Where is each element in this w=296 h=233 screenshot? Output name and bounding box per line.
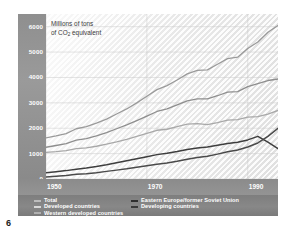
legend-swatch-icon — [131, 206, 138, 208]
legend-label: Western developed countries — [44, 211, 123, 217]
series-line — [46, 110, 278, 152]
legend-swatch-icon — [34, 206, 41, 208]
figure: 0100020003000400050006000 Millions of to… — [18, 14, 278, 216]
series-line — [46, 136, 278, 172]
x-axis-tick-label: 1990 — [249, 183, 264, 190]
legend-swatch-icon — [34, 212, 41, 214]
legend-item[interactable]: Western developed countries — [34, 211, 123, 217]
y-axis-title-line2-pre: of CO — [51, 29, 68, 36]
series-line — [46, 25, 278, 137]
legend-swatch-icon — [34, 200, 41, 202]
y-axis-tick-label: 6000 — [29, 24, 43, 30]
legend-label: Developing countries — [141, 204, 199, 210]
y-axis-title-line1: Millions of tons — [51, 20, 93, 27]
y-axis-tick-label: 3000 — [29, 100, 43, 106]
y-axis-title-line2-post: equivalent — [70, 29, 101, 36]
chart-legend: TotalDeveloped countriesWestern develope… — [18, 195, 278, 216]
y-axis-label-band: 0100020003000400050006000 — [18, 14, 46, 179]
series-line — [46, 79, 278, 147]
y-axis-tick-label: 4000 — [29, 74, 43, 80]
legend-item[interactable]: Developing countries — [131, 204, 199, 210]
y-axis-tick-label: 2000 — [29, 125, 43, 131]
x-axis-tick-label: 1950 — [47, 183, 62, 190]
x-axis-tick-label: 1970 — [148, 183, 163, 190]
y-axis-tick-label: 1000 — [29, 151, 43, 157]
y-axis-title: Millions of tons of CO2 equivalent — [51, 19, 161, 39]
y-axis-tick-label: 5000 — [29, 49, 43, 55]
series-line — [46, 128, 278, 177]
page-number: 6 — [6, 218, 11, 228]
legend-swatch-icon — [131, 200, 138, 202]
x-axis-label-strip: 195019701990 — [18, 179, 278, 195]
